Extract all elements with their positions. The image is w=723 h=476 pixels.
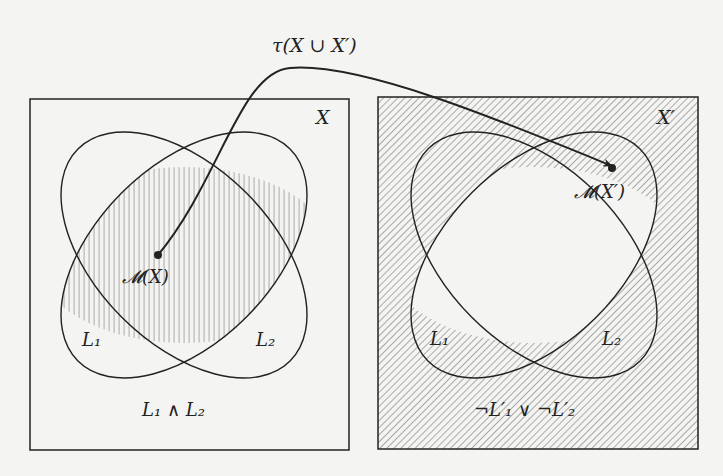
left-point-label: 𝓜(X) xyxy=(122,266,169,287)
right-set-label: X′ xyxy=(655,106,676,128)
left-intersection-shading xyxy=(16,87,353,424)
right-l1-label: L₁ xyxy=(429,328,449,349)
left-region-label: L₁ ∧ L₂ xyxy=(141,399,205,420)
left-l1-label: L₁ xyxy=(81,329,101,350)
right-region-label: ¬L′₁ ∨ ¬L′₂ xyxy=(474,399,575,420)
right-point-dot xyxy=(608,164,616,172)
right-point-label: 𝓜(X′) xyxy=(574,181,625,202)
left-panel-set-x xyxy=(16,87,353,450)
top-label: τ(X ∪ X′) xyxy=(272,34,357,56)
left-l2-label: L₂ xyxy=(255,329,275,350)
left-point-dot xyxy=(154,251,162,259)
right-panel-set-x-prime xyxy=(366,87,703,449)
right-l2-label: L₂ xyxy=(601,328,621,349)
diagram-canvas: τ(X ∪ X′) X 𝓜(X) L₁ L₂ L₁ ∧ L₂ X′ 𝓜(X′) … xyxy=(0,0,723,476)
left-set-label: X xyxy=(314,106,331,128)
